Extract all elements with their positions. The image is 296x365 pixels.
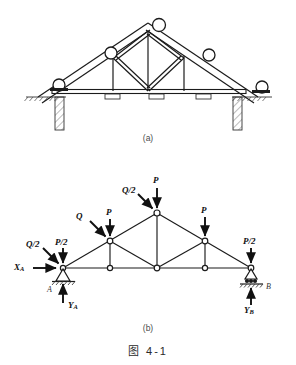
label-load-P-apex: P bbox=[153, 176, 159, 185]
joint-upper-right bbox=[202, 238, 208, 244]
joint-bottom-left bbox=[107, 265, 112, 270]
label-reaction-XA: XA bbox=[14, 263, 24, 273]
load-Q-half-apex-arrow bbox=[138, 194, 153, 209]
wall-bearing-plate-left bbox=[50, 88, 68, 91]
pin-support-left bbox=[52, 269, 75, 285]
wall-bearing-plate-right bbox=[252, 90, 270, 93]
joint-bottom-mid bbox=[154, 265, 160, 271]
figure-caption: 图 4-1 bbox=[0, 342, 296, 358]
joint-bottom-right bbox=[202, 265, 207, 270]
label-load-Q-half-left: Q/2 bbox=[26, 240, 40, 249]
roller-support-right bbox=[240, 269, 263, 288]
masonry-wall-right bbox=[233, 97, 242, 130]
label-reaction-YB: YB bbox=[244, 306, 254, 316]
label-joint-B: B bbox=[266, 283, 271, 291]
purlin-right-mid bbox=[203, 49, 215, 61]
label-load-P-half-left: P/2 bbox=[55, 238, 68, 247]
label-reaction-YA: YA bbox=[68, 301, 78, 311]
figure-page: Q/2 P/2 Q P Q/2 P P P/2 XA YA YB A B (a)… bbox=[0, 0, 296, 365]
label-load-P-left: P bbox=[106, 208, 112, 217]
load-Q-left-arrow bbox=[90, 221, 106, 237]
label-load-Q-half-apex: Q/2 bbox=[122, 186, 136, 195]
purlin-apex bbox=[153, 19, 166, 32]
bearing-blocks-a bbox=[105, 94, 211, 99]
masonry-wall-left bbox=[55, 97, 64, 130]
joint-upper-left bbox=[107, 238, 113, 244]
panel-a-truss-pictorial bbox=[25, 19, 273, 131]
joint-apex bbox=[154, 210, 160, 216]
panel-a-label: (a) bbox=[128, 133, 168, 143]
label-load-Q-left: Q bbox=[76, 212, 83, 221]
load-Q-half-left-arrow bbox=[43, 248, 59, 264]
label-load-P-right: P bbox=[201, 206, 207, 215]
load-arrows bbox=[43, 188, 251, 264]
panel-b-label: (b) bbox=[128, 323, 168, 333]
label-load-P-half-right: P/2 bbox=[243, 237, 256, 246]
purlin-left-mid bbox=[105, 47, 117, 59]
label-joint-A: A bbox=[47, 286, 52, 294]
bottom-chord-a bbox=[52, 90, 246, 94]
